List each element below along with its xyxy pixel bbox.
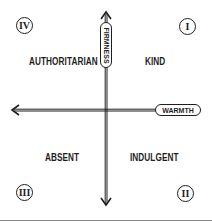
bottom-divider — [0, 220, 212, 221]
firmness-text: FIRMNESS — [103, 27, 110, 63]
quadrant-diagram: FIRMNESS WARMTH IV I III II AUTHORITARIA… — [0, 0, 212, 223]
quadrant-authoritarian-label: AUTHORITARIAN — [29, 56, 98, 67]
quadrant-iv-numeral: IV — [16, 17, 33, 34]
quadrant-absent-label: ABSENT — [45, 152, 79, 163]
quadrant-iii-numeral: III — [16, 184, 33, 201]
quadrant-i-numeral: I — [179, 18, 196, 35]
quadrant-kind-label: KIND — [145, 56, 165, 67]
quadrant-indulgent-label: INDULGENT — [130, 152, 179, 163]
quadrant-ii-numeral: II — [177, 185, 194, 202]
firmness-axis-label: FIRMNESS — [100, 22, 112, 68]
warmth-axis-label: WARMTH — [155, 104, 201, 116]
